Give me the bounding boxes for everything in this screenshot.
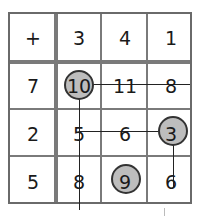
sum-cell[interactable]: 10 <box>56 62 102 110</box>
stray-mark <box>164 208 165 216</box>
row-header: 7 <box>10 62 56 110</box>
sum-cell[interactable]: 8 <box>148 62 194 110</box>
sum-cell[interactable]: 6 <box>102 110 148 158</box>
sum-cell[interactable]: 3 <box>148 110 194 158</box>
sum-cell[interactable]: 9 <box>102 158 148 206</box>
sum-cell[interactable]: 5 <box>56 110 102 158</box>
sum-cell[interactable]: 6 <box>148 158 194 206</box>
row-header: 5 <box>10 158 56 206</box>
addition-grid: + 3 4 1 7 2 5 10 11 8 5 6 3 8 9 6 <box>8 12 192 204</box>
col-header: 4 <box>102 14 148 62</box>
sum-cell[interactable]: 11 <box>102 62 148 110</box>
sum-cell[interactable]: 8 <box>56 158 102 206</box>
col-header: 3 <box>56 14 102 62</box>
operator-cell: + <box>10 14 56 62</box>
row-header: 2 <box>10 110 56 158</box>
col-header: 1 <box>148 14 194 62</box>
